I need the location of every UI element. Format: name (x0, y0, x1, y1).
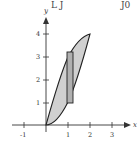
area-between-curves-diagram: L J J0 x y -1 1 2 3 1 2 3 4 (0, 0, 140, 148)
y-axis-label: y (43, 7, 49, 15)
x-axis-arrow-icon (124, 122, 131, 128)
x-tick-label: 2 (88, 131, 92, 139)
y-tick-label: 4 (36, 30, 40, 38)
representative-rectangle (67, 52, 73, 103)
x-tick-label: 1 (66, 131, 70, 139)
header-fragment-right: J0 (120, 0, 131, 10)
x-axis-label: x (133, 121, 137, 129)
y-tick-label: 3 (36, 53, 40, 61)
y-tick-label: 2 (36, 76, 40, 84)
x-tick-label: 3 (110, 131, 114, 139)
y-tick-label: 1 (36, 99, 40, 107)
x-tick-label: -1 (20, 131, 26, 139)
y-axis-arrow-icon (43, 17, 49, 24)
header-fragment-left: L J (51, 0, 64, 10)
